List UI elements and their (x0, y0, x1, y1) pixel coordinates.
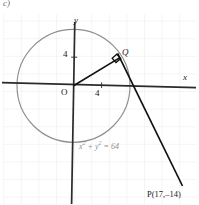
part-label: c) (3, 0, 10, 8)
y-tick-label-4: 4 (63, 50, 68, 59)
equation-tail: = 64 (102, 142, 119, 151)
point-label-q: Q (122, 48, 129, 57)
geometry-figure: c) y x O 4 4 Q x2 + y2 = 64 P(17,–14) (0, 0, 199, 205)
x-axis-label: x (183, 73, 187, 82)
grid-background (3, 14, 196, 204)
y-axis-label: y (74, 16, 78, 25)
circle-equation-label: x2 + y2 = 64 (79, 143, 119, 151)
origin-label: O (61, 88, 68, 97)
figure-canvas (0, 0, 199, 205)
point-label-p: P(17,–14) (147, 190, 181, 199)
x-tick-label-4: 4 (95, 89, 100, 98)
equation-mid: + y (86, 142, 99, 151)
